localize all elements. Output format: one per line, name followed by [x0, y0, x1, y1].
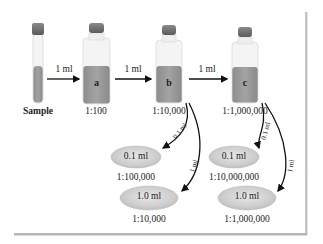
bottle-a-icon: [83, 23, 110, 104]
bottle-c-icon: [232, 27, 258, 103]
bottle-a-letter: a: [89, 77, 104, 88]
sample-label: Sample: [17, 106, 59, 116]
bottle-c-letter: c: [238, 77, 252, 88]
dilution-diagram-graphics: [0, 0, 323, 244]
bottle-a-dilution: 1:100: [76, 106, 116, 116]
plate-1-volume: 0.1 ml: [116, 151, 156, 161]
transfer-volume-label-3: 1 ml: [193, 64, 221, 74]
branch-arrows-b: [163, 103, 200, 191]
plate-2-volume: 1.0 ml: [129, 191, 169, 201]
plate-4-volume: 1.0 ml: [227, 191, 267, 201]
bottle-b-dilution: 1:10,000: [144, 106, 194, 116]
transfer-volume-label-1: 1 ml: [50, 64, 78, 74]
plate-3-dilution: 1:10,000,000: [196, 172, 272, 182]
plate-4-dilution: 1:1,000,000: [213, 214, 281, 224]
bottle-b-letter: b: [162, 77, 176, 88]
sample-tube-icon: [32, 23, 44, 103]
bottle-c-dilution: 1:1,000,000: [213, 106, 277, 116]
plate-1-dilution: 1:100,000: [104, 172, 168, 182]
plate-2-dilution: 1:10,000: [119, 214, 179, 224]
bottle-b-icon: [156, 25, 182, 103]
transfer-volume-label-2: 1 ml: [119, 64, 147, 74]
plate-3-volume: 0.1 ml: [214, 151, 254, 161]
